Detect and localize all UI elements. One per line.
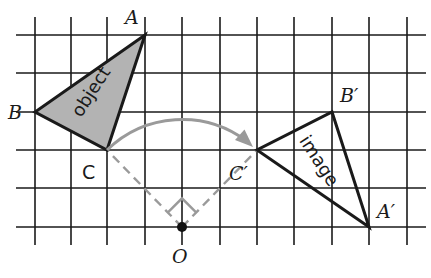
rotation-diagram: object image A B C O C′ B′ A′ xyxy=(0,0,431,278)
center-of-rotation-point xyxy=(177,222,187,232)
point-label-A-prime: A′ xyxy=(375,200,396,222)
point-label-C: C xyxy=(82,161,95,183)
rotation-arc-arrow xyxy=(107,119,247,150)
point-label-B-prime: B′ xyxy=(339,84,359,106)
point-label-O: O xyxy=(172,245,188,267)
arrowhead-icon xyxy=(235,130,253,147)
point-label-B: B xyxy=(7,101,22,123)
point-label-A: A xyxy=(123,6,139,28)
point-label-C-prime: C′ xyxy=(229,162,249,184)
